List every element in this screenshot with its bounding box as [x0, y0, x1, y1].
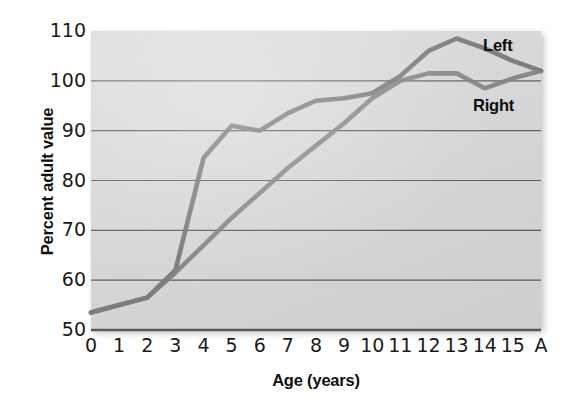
gridlines	[91, 81, 541, 330]
x-tick-A: A	[524, 336, 558, 355]
plot-area	[91, 31, 541, 330]
chart-canvas	[91, 31, 541, 330]
y-tick-60: 60	[44, 270, 86, 289]
y-tick-80: 80	[44, 171, 86, 190]
series-lines	[91, 38, 541, 312]
chart-figure: Percent adult value 1101009080706050 012…	[0, 0, 573, 417]
y-tick-110: 110	[44, 21, 86, 40]
x-axis-label: Age (years)	[91, 371, 541, 390]
series-label-left: Left	[483, 36, 512, 55]
y-tick-70: 70	[44, 220, 86, 239]
y-tick-100: 100	[44, 71, 86, 90]
series-line-left	[91, 38, 541, 312]
series-label-right: Right	[473, 96, 514, 115]
x-axis-tick-labels: 0123456789101112131415A	[91, 336, 541, 362]
y-tick-90: 90	[44, 121, 86, 140]
